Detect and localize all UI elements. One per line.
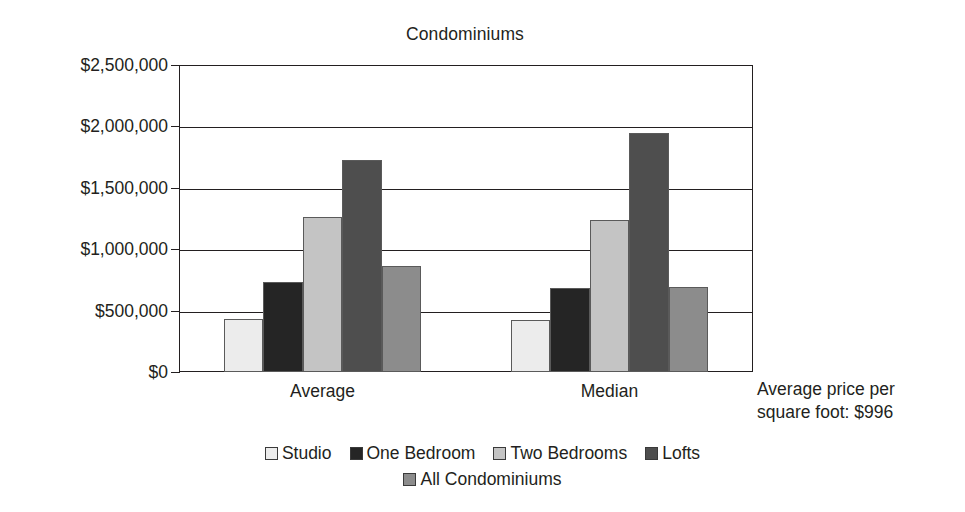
legend-swatch-icon <box>350 447 363 460</box>
legend-label: Studio <box>282 443 332 463</box>
bar <box>224 319 264 372</box>
bar <box>629 133 669 372</box>
bars-layer <box>179 65 753 372</box>
y-axis-tick-label: $1,500,000 <box>8 177 168 198</box>
bar <box>303 217 343 372</box>
condominiums-bar-chart: Condominiums $0$500,000$1,000,000$1,500,… <box>0 0 965 512</box>
y-axis-tick-label: $0 <box>8 362 168 383</box>
bar <box>669 287 709 372</box>
legend-swatch-icon <box>403 473 416 486</box>
legend-label: Lofts <box>662 443 700 463</box>
legend-swatch-icon <box>265 447 278 460</box>
bar <box>382 266 422 372</box>
y-axis-tick-label: $1,000,000 <box>8 239 168 260</box>
legend-item[interactable]: Studio <box>265 443 332 464</box>
chart-title: Condominiums <box>330 24 600 45</box>
bar <box>550 288 590 372</box>
legend-row-secondary: All Condominiums <box>0 469 965 490</box>
annotation-average-price-per-sqft: Average price per square foot: $996 <box>757 378 957 424</box>
legend-item[interactable]: All Condominiums <box>403 469 561 490</box>
annotation-line-1: Average price per <box>757 378 957 401</box>
y-axis-tick-label: $2,500,000 <box>8 55 168 76</box>
legend-label: One Bedroom <box>367 443 476 463</box>
bar <box>263 282 303 372</box>
bar <box>590 220 630 372</box>
y-axis-tick-mark <box>171 372 180 373</box>
legend-label: All Condominiums <box>420 469 561 489</box>
x-axis-category-label: Median <box>466 381 753 402</box>
y-axis-tick-label: $2,000,000 <box>8 116 168 137</box>
legend-label: Two Bedrooms <box>510 443 627 463</box>
legend-item[interactable]: Two Bedrooms <box>493 443 627 464</box>
legend-item[interactable]: Lofts <box>645 443 700 464</box>
legend-item[interactable]: One Bedroom <box>350 443 476 464</box>
y-axis-tick-label: $500,000 <box>8 300 168 321</box>
annotation-line-2: square foot: $996 <box>757 401 957 424</box>
legend-swatch-icon <box>493 447 506 460</box>
legend-swatch-icon <box>645 447 658 460</box>
bar <box>511 320 551 372</box>
bar <box>342 160 382 372</box>
x-axis-category-label: Average <box>179 381 466 402</box>
legend-row-primary: StudioOne BedroomTwo BedroomsLofts <box>0 443 965 464</box>
